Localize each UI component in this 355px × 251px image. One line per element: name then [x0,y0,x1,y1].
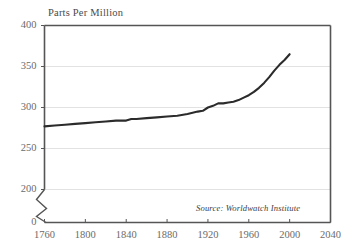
gridlines [45,67,331,190]
chart-container: Parts Per Million Source: Worldwatch Ins… [0,0,355,251]
chart-plot-area [0,0,355,251]
y-axis-break-zigzag [37,190,47,223]
data-series-line [45,54,290,126]
